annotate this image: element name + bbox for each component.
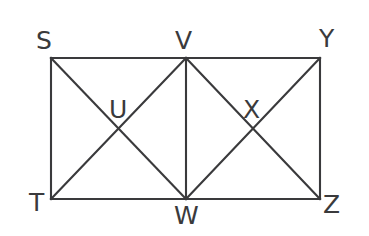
vertex-label-v: V (175, 28, 192, 53)
vertex-label-w: W (174, 203, 199, 228)
geometry-figure: SVYTWZUX (0, 0, 369, 236)
vertex-label-z: Z (323, 192, 340, 217)
segments-group (51, 58, 320, 199)
vertex-label-y: Y (319, 26, 334, 51)
vertex-label-s: S (36, 28, 52, 53)
vertex-label-u: U (109, 97, 127, 122)
vertex-label-t: T (29, 190, 44, 215)
vertex-label-x: X (243, 97, 260, 122)
